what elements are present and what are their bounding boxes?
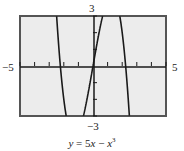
equation-caption: y = 5x − x3 [0,136,184,149]
y-min-label: −3 [87,121,99,132]
x-min-label: −5 [2,62,14,73]
y-max-label: 3 [89,3,95,14]
caption-minus: − [95,137,107,149]
caption-exponent: 3 [112,136,116,144]
caption-eq: = 5 [73,137,90,149]
x-max-label: 5 [172,62,178,73]
